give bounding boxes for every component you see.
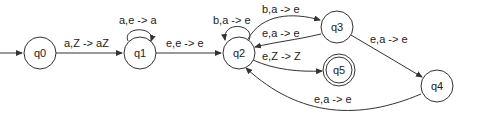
svg-text:q4: q4 [431,80,443,92]
transition-q0-q1: a,Z -> aZ [56,37,122,53]
svg-text:e,a -> e: e,a -> e [262,27,300,39]
svg-text:b,a -> e: b,a -> e [262,3,300,15]
svg-text:e,a -> e: e,a -> e [314,93,352,105]
svg-text:a,e -> a: a,e -> a [119,14,157,26]
pda-diagram: a,Z -> aZ a,e -> a e,e -> e b,a -> e b,a… [0,0,478,117]
svg-text:q2: q2 [233,47,245,59]
state-q1: q1 [124,37,156,69]
state-q3: q3 [321,11,353,43]
transition-q2-q5: e,Z -> Z [253,50,322,71]
svg-text:q3: q3 [331,21,343,33]
svg-text:e,e -> e: e,e -> e [166,37,204,49]
svg-text:e,a -> e: e,a -> e [370,33,408,45]
state-q2: q2 [223,37,255,69]
state-q0: q0 [24,37,56,69]
transition-q3-q2: e,a -> e [255,27,321,47]
transition-q3-q4: e,a -> e [351,33,422,77]
svg-text:a,Z -> aZ: a,Z -> aZ [64,37,109,49]
state-q5-accepting: q5 [323,54,355,86]
transition-q2-loop: b,a -> e [213,14,251,40]
svg-text:b,a -> e: b,a -> e [213,14,251,26]
transition-q1-q2: e,e -> e [156,37,221,53]
svg-text:q1: q1 [134,47,146,59]
svg-text:e,Z -> Z: e,Z -> Z [262,50,301,62]
state-q4: q4 [421,70,453,102]
svg-text:q5: q5 [333,64,345,76]
svg-text:q0: q0 [34,47,46,59]
